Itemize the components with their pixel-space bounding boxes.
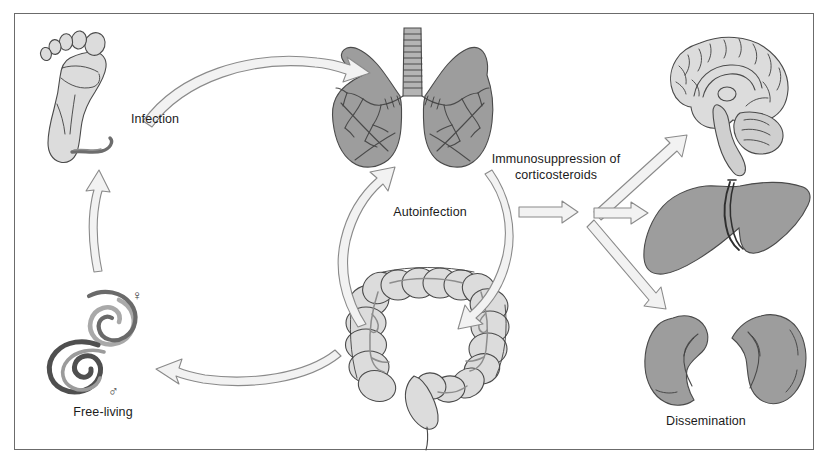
label-immunosuppression: Immunosuppression of corticosteroids xyxy=(492,152,620,183)
liver-illustration xyxy=(644,180,810,274)
label-infection: Infection xyxy=(131,112,179,128)
immunosuppression-line-2: corticosteroids xyxy=(515,168,597,182)
label-autoinfection: Autoinfection xyxy=(393,205,467,221)
male-symbol: ♂ xyxy=(108,384,119,398)
label-free-living: Free-living xyxy=(73,405,132,421)
arrow-to-dissemination-hub xyxy=(519,201,578,223)
lungs-illustration xyxy=(332,28,492,167)
brain-illustration xyxy=(671,37,788,175)
female-symbol: ♀ xyxy=(132,288,143,302)
foot-illustration xyxy=(39,30,111,163)
immunosuppression-line-1: Immunosuppression of xyxy=(492,152,620,166)
label-dissemination: Dissemination xyxy=(666,414,746,430)
arrow-intestine-to-worms xyxy=(156,350,341,386)
arrow-worms-to-foot xyxy=(86,170,110,272)
kidneys-illustration xyxy=(645,315,806,406)
free-living-worms-illustration xyxy=(49,292,135,392)
life-cycle-figure: .org-out { stroke: #4a4a4a; stroke-width… xyxy=(0,0,829,466)
diagram-artwork: .org-out { stroke: #4a4a4a; stroke-width… xyxy=(0,0,829,466)
